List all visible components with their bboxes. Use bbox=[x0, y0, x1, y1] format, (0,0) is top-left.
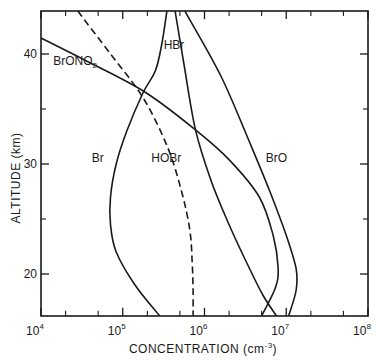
x-tick-exp: 8 bbox=[366, 322, 371, 331]
y-axis-ticks: 203040 bbox=[24, 47, 368, 281]
x-tick-exp: 4 bbox=[39, 322, 44, 331]
x-axis-label-main: CONCENTRATION (cm bbox=[129, 342, 265, 356]
series-labels: BrONO2HBrBrHOBrBrO bbox=[53, 38, 287, 165]
y-tick-label: 40 bbox=[24, 47, 38, 61]
y-axis-label: ALTITUDE (km) bbox=[9, 133, 23, 224]
x-tick-base: 10 bbox=[108, 324, 122, 338]
label-hbr: HBr bbox=[164, 38, 185, 52]
x-tick-base: 10 bbox=[26, 324, 40, 338]
x-axis-label: CONCENTRATION (cm-3) bbox=[129, 341, 277, 356]
x-tick-exp: 6 bbox=[203, 322, 208, 331]
x-tick-label: 106 bbox=[190, 322, 208, 338]
x-tick-base: 10 bbox=[271, 324, 285, 338]
x-tick-base: 10 bbox=[353, 324, 367, 338]
x-tick-exp: 7 bbox=[285, 322, 290, 331]
y-tick-label: 20 bbox=[24, 267, 38, 281]
curve-brono2 bbox=[41, 38, 278, 316]
label-br: Br bbox=[92, 151, 104, 165]
x-tick-base: 10 bbox=[190, 324, 204, 338]
x-axis-label-sup: -3 bbox=[264, 341, 272, 350]
label-bro: BrO bbox=[266, 151, 287, 165]
x-tick-exp: 5 bbox=[121, 322, 126, 331]
label-text: Br bbox=[92, 151, 104, 165]
label-text: BrO bbox=[266, 151, 287, 165]
altitude-concentration-chart: 104105106107108 203040 BrONO2HBrBrHOBrBr… bbox=[0, 0, 387, 364]
x-tick-label: 104 bbox=[26, 322, 44, 338]
x-tick-label: 108 bbox=[353, 322, 371, 338]
label-brono2: BrONO2 bbox=[53, 54, 97, 70]
label-text: HBr bbox=[164, 38, 185, 52]
label-subscript: 2 bbox=[93, 61, 98, 70]
x-axis-label-close: ) bbox=[273, 342, 278, 356]
label-text: BrONO bbox=[53, 54, 92, 68]
label-text: HOBr bbox=[151, 151, 181, 165]
label-hobr: HOBr bbox=[151, 151, 181, 165]
x-tick-label: 105 bbox=[108, 322, 126, 338]
x-tick-label: 107 bbox=[271, 322, 289, 338]
curve-hbr bbox=[175, 11, 276, 316]
y-tick-label: 30 bbox=[24, 157, 38, 171]
